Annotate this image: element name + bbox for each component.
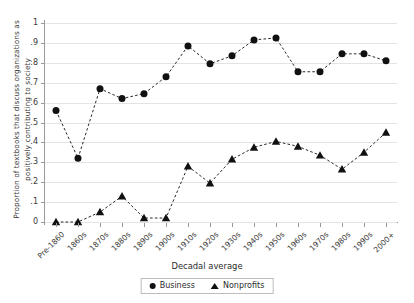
data-point-business [163,73,170,80]
x-axis-tick [364,223,365,227]
data-point-nonprofits [162,214,170,221]
data-point-nonprofits [96,208,104,215]
x-axis-tick [166,223,167,227]
data-point-nonprofits [140,214,148,221]
x-axis-tick [298,223,299,227]
data-point-nonprofits [316,151,324,158]
data-point-nonprofits [184,162,192,169]
chart-figure: Proportion of textbooks that discuss org… [0,0,414,303]
x-axis-tick-label: 1990s [352,230,375,253]
data-point-nonprofits [118,192,126,199]
data-point-business [229,52,236,59]
x-axis-tick-label: 1950s [264,230,287,253]
x-axis-tick [232,223,233,227]
y-axis-tick-label: 1 [19,18,45,27]
y-axis-tick-label: .1 [19,197,45,206]
y-axis-tick-label: .2 [19,177,45,186]
data-point-business [361,50,368,57]
series-line-nonprofits [56,132,386,222]
x-axis-tick-label: 1960s [286,230,309,253]
gridline [45,222,397,223]
x-axis-tick [342,223,343,227]
data-point-business [185,42,192,49]
legend-label-nonprofits: Nonprofits [223,281,264,290]
x-axis-tick-label: 1870s [88,230,111,253]
data-point-business [251,36,258,43]
x-axis-tick [386,223,387,227]
x-axis-tick-label: 1890s [132,230,155,253]
x-axis-tick [320,223,321,227]
y-axis-tick-label: 0 [19,217,45,226]
data-point-nonprofits [294,142,302,149]
data-point-business [317,68,324,75]
x-axis-tick-label: 2000+ [372,230,397,255]
data-point-nonprofits [272,137,280,144]
series-line-business [56,38,386,158]
circle-marker-icon [150,283,156,289]
data-point-business [339,50,346,57]
data-point-business [295,68,302,75]
data-point-nonprofits [338,165,346,172]
x-axis-tick-label: 1930s [220,230,243,253]
y-axis-tick-label: .4 [19,137,45,146]
data-point-business [97,85,104,92]
y-axis-tick-label: .8 [19,57,45,66]
data-point-business [141,90,148,97]
legend-label-business: Business [160,281,195,290]
data-series-layer [45,23,397,222]
x-axis-tick-label: Pre-1860 [36,230,67,261]
y-axis-tick-label: .6 [19,97,45,106]
x-axis-tick [78,223,79,227]
data-point-business [119,95,126,102]
x-axis-title: Decadal average [0,261,414,271]
chart-legend: Business Nonprofits [141,278,274,294]
x-axis-tick [144,223,145,227]
data-point-business [207,60,214,67]
data-point-business [383,57,390,64]
triangle-marker-icon [211,283,219,289]
data-point-business [273,34,280,41]
x-axis-tick-label: 1980s [330,230,353,253]
data-point-business [53,107,60,114]
y-axis-tick-label: .7 [19,77,45,86]
x-axis-tick-label: 1910s [176,230,199,253]
data-point-business [75,155,82,162]
x-axis-tick [122,223,123,227]
x-axis-tick-label: 1880s [110,230,133,253]
data-point-nonprofits [206,179,214,186]
x-axis-tick [276,223,277,227]
x-axis-tick-label: 1940s [242,230,265,253]
x-axis-tick [56,223,57,227]
legend-item-business[interactable]: Business [150,281,195,290]
y-axis-tick-label: .5 [19,117,45,126]
x-axis-tick [210,223,211,227]
x-axis-tick [188,223,189,227]
x-axis-tick-label: 1970s [308,230,331,253]
y-axis-tick-label: .9 [19,37,45,46]
data-point-nonprofits [382,128,390,135]
x-axis-tick [254,223,255,227]
y-axis-tick-label: .3 [19,157,45,166]
x-axis-tick-label: 1860s [66,230,89,253]
x-axis-tick [100,223,101,227]
plot-area: 0.1.2.3.4.5.6.7.8.91 [45,23,397,222]
x-axis-tick-label: 1920s [198,230,221,253]
x-axis-tick-label: 1900s [154,230,177,253]
legend-item-nonprofits[interactable]: Nonprofits [211,281,264,290]
data-point-nonprofits [228,155,236,162]
